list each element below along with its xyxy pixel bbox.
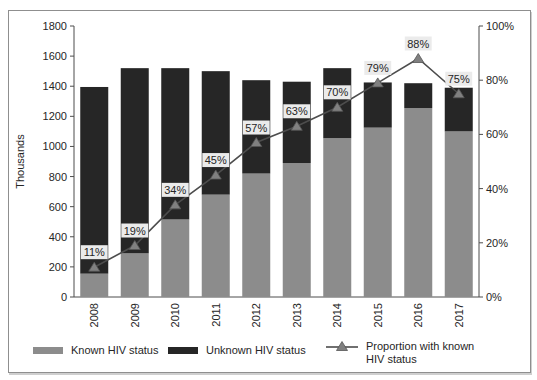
bar-unknown-2016 <box>404 83 432 108</box>
figure: 0200400600800100012001400160018000%20%40… <box>0 0 537 380</box>
chart-canvas: 0200400600800100012001400160018000%20%40… <box>0 0 537 380</box>
left-tick-label-1600: 1600 <box>43 50 67 62</box>
left-tick-label-1800: 1800 <box>43 20 67 32</box>
proportion-label-2008: 11% <box>84 246 105 258</box>
proportion-marker-2015 <box>372 78 383 87</box>
bar-known-2011 <box>202 195 230 297</box>
bar-known-2009 <box>121 253 149 297</box>
bar-known-2017 <box>445 131 473 297</box>
proportion-label-2015: 79% <box>367 62 389 74</box>
legend-label-known: Known HIV status <box>71 344 158 357</box>
bar-known-2008 <box>80 274 108 297</box>
proportion-marker-2016 <box>413 54 424 63</box>
x-tick-label-2016: 2016 <box>412 303 424 327</box>
legend-line-marker-icon <box>326 340 358 353</box>
proportion-label-2017: 75% <box>448 73 470 85</box>
left-tick-label-200: 200 <box>49 261 67 273</box>
proportion-label-2012: 57% <box>245 122 267 134</box>
legend-swatch-unknown-icon <box>168 347 198 354</box>
right-tick-label-0%: 0% <box>486 291 502 303</box>
right-tick-label-40%: 40% <box>486 183 508 195</box>
left-tick-label-1400: 1400 <box>43 80 67 92</box>
x-tick-label-2011: 2011 <box>210 303 222 327</box>
right-tick-label-60%: 60% <box>486 128 508 140</box>
x-tick-label-2015: 2015 <box>372 303 384 327</box>
legend-label-unknown: Unknown HIV status <box>206 344 306 357</box>
bar-known-2016 <box>404 108 432 297</box>
proportion-label-2016: 88% <box>407 38 429 50</box>
x-tick-label-2008: 2008 <box>88 303 100 327</box>
proportion-label-2014: 70% <box>326 86 348 98</box>
legend-swatch-known-icon <box>33 347 63 354</box>
x-tick-label-2017: 2017 <box>453 303 465 327</box>
left-tick-label-1200: 1200 <box>43 110 67 122</box>
bar-known-2014 <box>323 138 351 297</box>
proportion-line <box>94 59 459 268</box>
right-tick-label-80%: 80% <box>486 74 508 86</box>
x-tick-label-2012: 2012 <box>250 303 262 327</box>
proportion-label-2013: 63% <box>286 105 308 117</box>
bar-known-2010 <box>161 219 189 297</box>
left-tick-label-1000: 1000 <box>43 140 67 152</box>
legend-item-unknown: Unknown HIV status <box>168 344 306 357</box>
x-tick-label-2013: 2013 <box>291 303 303 327</box>
bar-known-2015 <box>364 128 392 297</box>
legend-item-proportion: Proportion with known HIV status <box>326 340 484 366</box>
proportion-label-2009: 19% <box>124 225 146 237</box>
bar-known-2012 <box>242 174 270 297</box>
legend-item-known: Known HIV status <box>33 344 158 357</box>
bar-known-2013 <box>283 163 311 297</box>
proportion-label-2010: 34% <box>164 184 186 196</box>
left-tick-label-0: 0 <box>61 291 67 303</box>
left-tick-label-400: 400 <box>49 231 67 243</box>
left-axis-title: Thousands <box>14 134 26 189</box>
proportion-label-2011: 45% <box>205 154 227 166</box>
x-tick-label-2014: 2014 <box>331 303 343 327</box>
left-tick-label-800: 800 <box>49 171 67 183</box>
legend-label-proportion: Proportion with known HIV status <box>366 340 484 366</box>
x-tick-label-2010: 2010 <box>169 303 181 327</box>
legend: Known HIV status Unknown HIV status Prop… <box>0 338 537 378</box>
right-tick-label-100%: 100% <box>486 20 514 32</box>
right-tick-label-20%: 20% <box>486 237 508 249</box>
left-tick-label-600: 600 <box>49 201 67 213</box>
x-tick-label-2009: 2009 <box>129 303 141 327</box>
